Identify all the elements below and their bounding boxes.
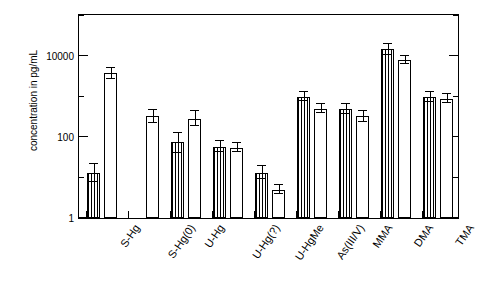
error-bar	[405, 55, 406, 63]
error-bar-cap	[173, 152, 182, 153]
x-axis-tick	[128, 211, 129, 218]
bar-group-item	[87, 16, 100, 218]
error-bar	[195, 110, 196, 125]
error-bar-cap	[425, 91, 434, 92]
error-bar-cap	[400, 55, 409, 56]
x-axis-category-label: DMA	[411, 222, 435, 249]
error-bar-cap	[232, 142, 241, 143]
plot-area: 110010000	[78, 14, 459, 219]
chart-root: concentration in pg/mL 110010000 S-HgS-H…	[0, 0, 479, 291]
bar	[381, 49, 394, 218]
bar-group-item	[255, 16, 268, 218]
error-bar	[262, 165, 263, 178]
error-bar-cap	[215, 140, 224, 141]
x-axis-category-label: S-Hg(0)	[165, 222, 197, 260]
error-bar-cap	[106, 67, 115, 68]
error-bar-cap	[232, 151, 241, 152]
x-axis-category-label: U-HgMe	[292, 222, 325, 262]
error-bar-cap	[89, 163, 98, 164]
error-bar	[153, 109, 154, 122]
error-bar-cap	[425, 101, 434, 102]
error-bar-cap	[274, 184, 283, 185]
x-axis-category-label: U-Hg(?)	[250, 222, 282, 261]
bar-group-item	[171, 16, 184, 218]
bar	[297, 97, 310, 218]
error-bar	[304, 91, 305, 100]
y-axis-tick-label: 1	[68, 213, 74, 224]
bar	[314, 109, 327, 218]
bar	[171, 142, 184, 218]
error-bar-cap	[442, 102, 451, 103]
bar-group-item	[230, 16, 243, 218]
bar-group-item	[339, 16, 352, 218]
x-axis-category-label: S-Hg	[118, 222, 142, 249]
error-bar-cap	[89, 181, 98, 182]
x-axis-category-label: As(III/V)	[334, 222, 367, 261]
error-bar	[430, 91, 431, 101]
error-bar-cap	[215, 151, 224, 152]
y-axis-minor-tick-right	[453, 177, 458, 178]
error-bar-cap	[383, 54, 392, 55]
error-bar-cap	[148, 122, 157, 123]
bar	[272, 190, 285, 218]
bar	[255, 173, 268, 218]
bar-group-item	[398, 16, 411, 218]
error-bar	[111, 67, 112, 78]
y-axis-minor-tick	[79, 15, 84, 16]
error-bar	[346, 103, 347, 113]
x-axis-category-label: TMA	[453, 222, 476, 248]
bar	[356, 116, 369, 218]
error-bar-cap	[190, 125, 199, 126]
x-axis-labels: S-HgS-Hg(0)U-HgU-Hg(?)U-HgMeAs(III/V)MMA…	[78, 222, 459, 288]
y-axis-minor-tick	[79, 177, 84, 178]
bar	[104, 73, 117, 218]
y-axis-minor-tick-right	[453, 96, 458, 97]
error-bar-cap	[299, 100, 308, 101]
bar	[398, 60, 411, 218]
error-bar	[94, 163, 95, 181]
bar	[230, 148, 243, 218]
bar	[188, 119, 201, 218]
error-bar-cap	[257, 165, 266, 166]
error-bar	[220, 140, 221, 151]
error-bar-cap	[316, 112, 325, 113]
bar	[423, 97, 436, 218]
error-bar-cap	[400, 63, 409, 64]
error-bar	[279, 184, 280, 193]
error-bar-cap	[190, 110, 199, 111]
error-bar-cap	[316, 103, 325, 104]
y-axis-minor-tick-right	[453, 15, 458, 16]
bar-group-item	[104, 16, 117, 218]
y-axis-title: concentration in pg/mL	[28, 6, 39, 196]
error-bar-cap	[106, 78, 115, 79]
error-bar	[447, 93, 448, 102]
bar-group-item	[314, 16, 327, 218]
bar	[440, 99, 453, 218]
error-bar-cap	[442, 93, 451, 94]
bar-group-item	[440, 16, 453, 218]
error-bar	[388, 43, 389, 53]
y-axis-tick-label: 10000	[46, 51, 74, 62]
error-bar	[237, 142, 238, 151]
error-bar-cap	[383, 43, 392, 44]
error-bar-cap	[257, 178, 266, 179]
y-axis-minor-tick	[79, 96, 84, 97]
error-bar-cap	[341, 113, 350, 114]
error-bar-cap	[148, 109, 157, 110]
bar-group-item	[423, 16, 436, 218]
bar	[146, 116, 159, 218]
plot-inner: 110010000	[79, 15, 458, 218]
error-bar	[363, 110, 364, 121]
x-axis-category-label: U-Hg	[202, 222, 227, 250]
error-bar-cap	[358, 121, 367, 122]
error-bar	[321, 103, 322, 112]
bar	[339, 109, 352, 218]
bar-group-item	[297, 16, 310, 218]
bar	[213, 147, 226, 218]
error-bar	[178, 132, 179, 153]
error-bar-cap	[274, 193, 283, 194]
y-axis-tick-label: 100	[57, 132, 74, 143]
error-bar-cap	[173, 132, 182, 133]
bar-group-item	[213, 16, 226, 218]
error-bar-cap	[299, 91, 308, 92]
